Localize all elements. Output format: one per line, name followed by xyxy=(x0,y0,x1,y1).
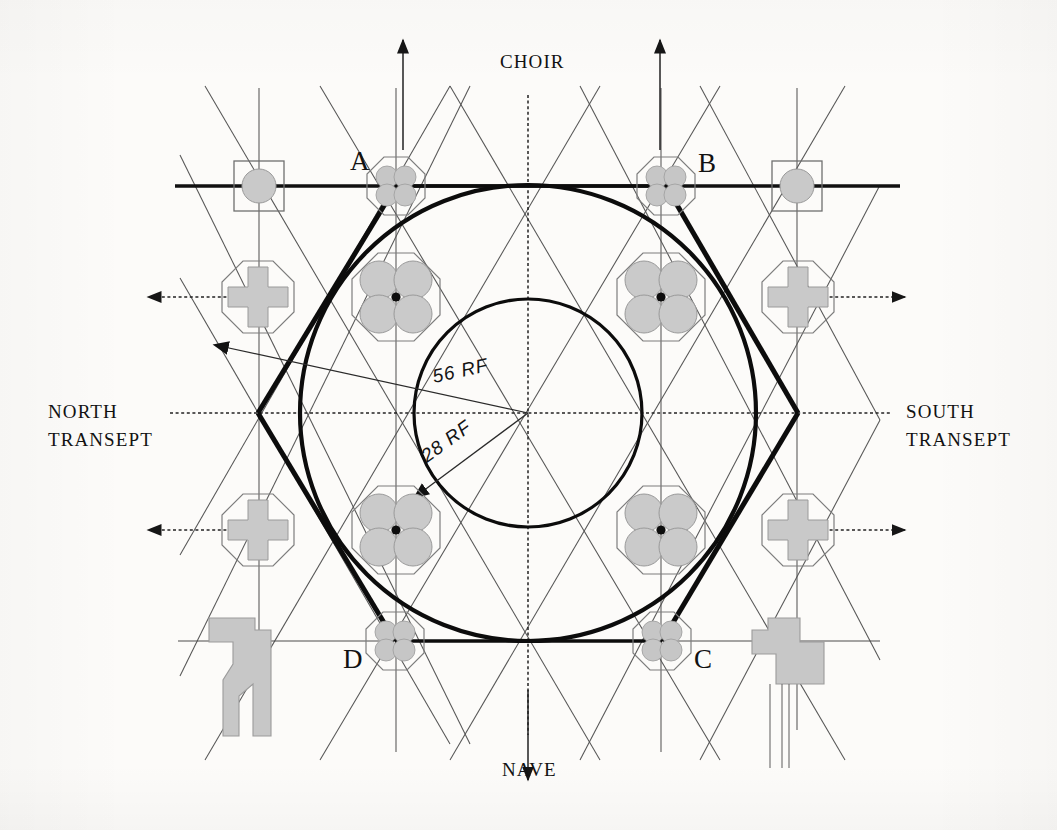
figure-canvas: 56 RF 28 RF xyxy=(0,0,1057,830)
pier-centre-dot xyxy=(391,292,400,301)
label-pier-b: B xyxy=(698,147,716,180)
plan-drawing: 56 RF 28 RF xyxy=(0,0,1057,830)
label-nave: NAVE xyxy=(502,758,557,781)
label-choir: CHOIR xyxy=(500,50,565,73)
label-pier-c: C xyxy=(694,643,712,676)
label-south-transept-line2: TRANSEPT xyxy=(906,428,1011,451)
label-pier-a: A xyxy=(350,145,370,178)
label-south-transept-line1: SOUTH xyxy=(906,400,975,423)
wall-fragment-west xyxy=(209,618,271,736)
label-north-transept-line1: NORTH xyxy=(48,400,118,423)
label-north-transept-line2: TRANSEPT xyxy=(48,428,153,451)
label-pier-d: D xyxy=(343,643,363,676)
main-axis-arrows xyxy=(403,40,660,780)
